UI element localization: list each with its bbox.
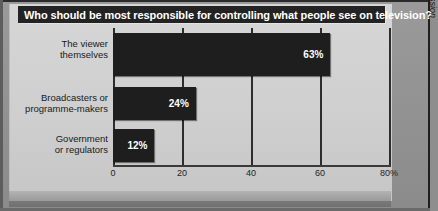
plot-area: 63%24%12% (113, 28, 389, 166)
frame-border-bottom (0, 208, 430, 211)
bar-value-label: 63% (303, 49, 330, 60)
category-label-line: The viewer (4, 38, 108, 49)
x-tick-label: 20 (177, 168, 187, 178)
source-note: Source: Broadcasting Standards Commissio… (428, 0, 438, 18)
bar-value-label: 12% (127, 140, 154, 151)
category-label-line: programme-makers (4, 103, 108, 114)
category-label-line: Government (4, 133, 108, 144)
category-label-broadcasters: Broadcasters or programme-makers (4, 92, 108, 114)
x-tick-label: 80% (380, 168, 398, 178)
category-label-line: or regulators (4, 144, 108, 155)
category-label-viewer: The viewer themselves (4, 38, 108, 60)
category-label-government: Government or regulators (4, 133, 108, 155)
category-label-line: themselves (4, 49, 108, 60)
bar: 12% (113, 129, 154, 162)
bar: 63% (113, 33, 330, 76)
x-tick-label: 0 (110, 168, 115, 178)
gridline (389, 28, 391, 166)
bar-value-label: 24% (169, 98, 196, 109)
frame-border-right (428, 0, 430, 211)
x-tick-label: 60 (315, 168, 325, 178)
category-axis: The viewer themselves Broadcasters or pr… (0, 0, 108, 197)
category-label-line: Broadcasters or (4, 92, 108, 103)
x-tick-label: 40 (246, 168, 256, 178)
bar: 24% (113, 87, 196, 120)
x-axis-line (113, 165, 391, 167)
